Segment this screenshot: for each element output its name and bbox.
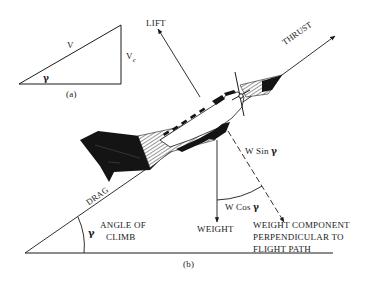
lift-label: LIFT — [146, 18, 166, 28]
perpendicular-label-line3: FLIGHT PATH — [253, 244, 311, 254]
w-sin-text: W Sin — [245, 146, 269, 156]
velocity-triangle — [19, 25, 121, 84]
perpendicular-label-line2: PERPENDICULAR TO — [253, 232, 344, 242]
caption-b: (b) — [183, 259, 194, 269]
w-cos-arc — [217, 186, 262, 200]
velocity-label: V — [67, 40, 74, 50]
weight-label: WEIGHT — [197, 224, 234, 234]
caption-a: (a) — [66, 89, 77, 99]
triangle-gamma-symbol: γ — [43, 73, 49, 83]
lift-arrow — [158, 29, 200, 97]
angle-of-climb-line1: ANGLE OF — [100, 220, 146, 230]
angle-of-climb-gamma: γ — [88, 228, 95, 238]
w-cos-gamma: γ — [253, 202, 259, 212]
climb-velocity-subscript: c — [133, 56, 136, 64]
climb-velocity-label: Vc — [126, 51, 136, 65]
w-cos-label: W Cos γ — [225, 202, 259, 212]
w-sin-gamma: γ — [271, 146, 277, 156]
angle-of-climb-arc — [78, 217, 84, 253]
angle-of-climb-line2: CLIMB — [106, 232, 136, 242]
climb-velocity-v: V — [126, 51, 133, 61]
perpendicular-label-line1: WEIGHT COMPONENT — [253, 220, 350, 230]
airplane-illustration — [80, 72, 282, 182]
w-sin-label: W Sin γ — [245, 146, 277, 156]
w-cos-text: W Cos — [225, 202, 251, 212]
